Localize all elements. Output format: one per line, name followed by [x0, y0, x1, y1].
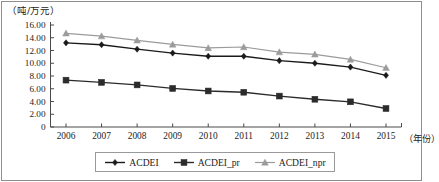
legend-item-acdei[interactable]: ACDEI [104, 157, 158, 168]
x-tick-label: 2009 [163, 131, 182, 141]
x-tick-label: 2012 [270, 131, 289, 141]
square-marker-icon [173, 157, 195, 168]
square-marker-icon [181, 159, 187, 165]
diamond-marker-icon [348, 64, 353, 70]
diamond-marker-icon [63, 40, 68, 46]
x-tick-label: 2007 [92, 131, 111, 141]
x-tick-label: 2015 [377, 131, 396, 141]
square-marker-icon [170, 86, 176, 92]
x-tick-label: 2010 [199, 131, 218, 141]
legend-item-acdei_npr[interactable]: ACDEI_npr [254, 157, 326, 168]
diamond-marker-icon [277, 58, 282, 64]
triangle-marker-icon [254, 157, 276, 168]
diamond-marker-icon [312, 60, 317, 66]
y-tick-label: 2.00 [29, 109, 45, 119]
y-tick-label: 4.00 [29, 97, 45, 107]
chart-legend: ACDEIACDEI_prACDEI_npr [95, 152, 335, 172]
square-marker-icon [205, 88, 211, 94]
y-tick-label: 14.00 [25, 33, 46, 43]
square-marker-icon [348, 99, 354, 105]
square-marker-icon [312, 96, 318, 102]
diamond-marker-icon [104, 157, 126, 168]
legend-label: ACDEI_pr [198, 157, 240, 168]
series-line [66, 80, 386, 108]
square-marker-icon [383, 106, 389, 112]
diamond-marker-icon [383, 72, 388, 78]
y-tick-label: 8.00 [29, 71, 45, 81]
legend-label: ACDEI_npr [279, 157, 326, 168]
square-marker-icon [241, 89, 247, 95]
x-tick-label: 2011 [235, 131, 254, 141]
y-axis-ticks: 02.004.006.008.0010.0012.0014.0016.00 [25, 20, 54, 132]
x-tick-label: 2013 [306, 131, 325, 141]
diamond-marker-icon [241, 53, 246, 59]
square-marker-icon [276, 93, 282, 99]
series-acdei_pr [63, 77, 389, 111]
x-axis-unit-label: （年份） [404, 131, 439, 145]
y-tick-label: 10.00 [25, 58, 46, 68]
square-marker-icon [63, 77, 69, 83]
series-line [66, 33, 386, 67]
x-tick-label: 2008 [128, 131, 147, 141]
y-tick-label: 12.00 [25, 46, 46, 56]
x-axis-ticks: 2006200720082009201020112012201320142015 [57, 124, 396, 142]
diamond-marker-icon [170, 50, 175, 56]
diamond-marker-icon [99, 42, 104, 48]
square-marker-icon [134, 82, 140, 88]
x-tick-label: 2014 [341, 131, 360, 141]
diamond-marker-icon [206, 53, 211, 59]
x-tick-label: 2006 [57, 131, 76, 141]
diamond-marker-icon [135, 46, 140, 52]
legend-item-acdei_pr[interactable]: ACDEI_pr [173, 157, 240, 168]
y-tick-label: 0 [41, 122, 46, 132]
y-tick-label: 16.00 [25, 20, 46, 30]
series-acdei_npr [63, 30, 390, 70]
square-marker-icon [99, 79, 105, 85]
y-tick-label: 6.00 [29, 84, 45, 94]
diamond-marker-icon [113, 159, 118, 165]
legend-label: ACDEI [129, 157, 158, 168]
series-acdei [63, 40, 388, 79]
